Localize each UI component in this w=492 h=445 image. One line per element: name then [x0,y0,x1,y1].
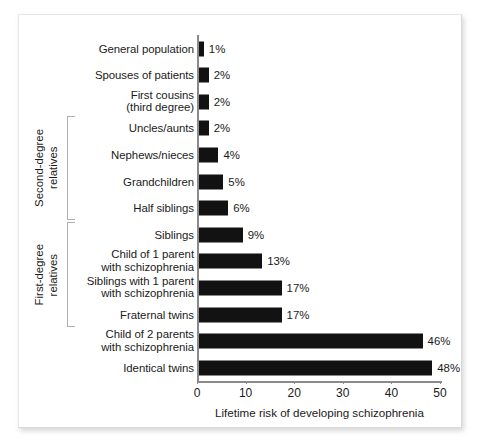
bar-category-label: Fraternal twins [120,308,194,321]
bar-category-label: Nephews/nieces [111,149,194,162]
bar-category-label: Grandchildren [123,175,194,188]
bar-category-label: Half siblings [133,202,194,215]
bar-category-label: Siblings [155,228,195,241]
bar-row: Nephews/nieces4% [19,141,463,168]
bar-row: General population1% [19,35,463,62]
x-tick-mark [294,381,295,384]
figure-frame: General population1%Spouses of patients2… [18,14,462,428]
bar [199,334,423,349]
bar-value-label: 2% [214,69,230,81]
x-axis-title: Lifetime risk of developing schizophreni… [197,406,442,419]
bar-row: Siblings with 1 parent with schizophreni… [19,274,463,301]
group-label: First-degree relatives [33,222,60,326]
bar-value-label: 5% [228,176,244,188]
bar-row: Uncles/aunts2% [19,115,463,142]
x-tick-label: 40 [385,386,398,400]
bar-row: Child of 2 parents with schizophrenia46% [19,328,463,355]
bar-row: Siblings9% [19,221,463,248]
bar-row: Half siblings6% [19,195,463,222]
bar-row: Fraternal twins17% [19,301,463,328]
group-bracket [67,116,75,220]
bar-category-label: Spouses of patients [95,69,194,82]
group-label: Second-degree relatives [33,116,60,220]
bar [199,307,282,322]
group-bracket [67,222,75,326]
x-tick-mark [343,381,344,384]
bar-value-label: 1% [209,43,225,55]
x-axis-line [197,381,442,383]
x-tick-label: 20 [288,386,301,400]
x-tick-mark [197,381,198,384]
x-tick-label: 30 [336,386,349,400]
bar [199,121,209,136]
bar-row: Spouses of patients2% [19,62,463,89]
bar-value-label: 48% [437,362,460,374]
bar-category-label: Identical twins [123,361,194,374]
bar [199,360,432,375]
group-label-text: Second-degree relatives [33,129,60,207]
bar-value-label: 17% [287,309,310,321]
bar-value-label: 46% [428,335,451,347]
x-tick-mark [391,381,392,384]
x-tick-mark [246,381,247,384]
bar-category-label: Siblings with 1 parent with schizophreni… [87,275,194,300]
bar [199,174,223,189]
bar-value-label: 17% [287,282,310,294]
bar [199,201,228,216]
bar [199,94,209,109]
bar-category-label: Child of 2 parents with schizophrenia [101,329,194,354]
bar-value-label: 13% [267,255,290,267]
bar [199,227,243,242]
bar-category-label: Child of 1 parent with schizophrenia [101,249,194,274]
bar-row: Identical twins48% [19,354,463,381]
group-label-text: First-degree relatives [33,244,60,305]
bar-value-label: 9% [248,229,264,241]
bar [199,254,262,269]
bar [199,147,218,162]
x-tick-label: 50 [433,386,446,400]
bar [199,68,209,83]
bar-row: First cousins (third degree)2% [19,88,463,115]
bar-value-label: 6% [233,202,249,214]
bar [199,41,204,56]
bar-category-label: General population [99,42,194,55]
bar-chart: General population1%Spouses of patients2… [19,15,463,429]
bar-row: Grandchildren5% [19,168,463,195]
bar-value-label: 2% [214,96,230,108]
bar-category-label: First cousins (third degree) [126,89,194,114]
bar-value-label: 4% [223,149,239,161]
bar-category-label: Uncles/aunts [129,122,194,135]
x-tick-label: 10 [239,386,252,400]
x-tick-mark [440,381,441,384]
bar [199,280,282,295]
x-tick-label: 0 [194,386,201,400]
bar-value-label: 2% [214,122,230,134]
bar-row: Child of 1 parent with schizophrenia13% [19,248,463,275]
